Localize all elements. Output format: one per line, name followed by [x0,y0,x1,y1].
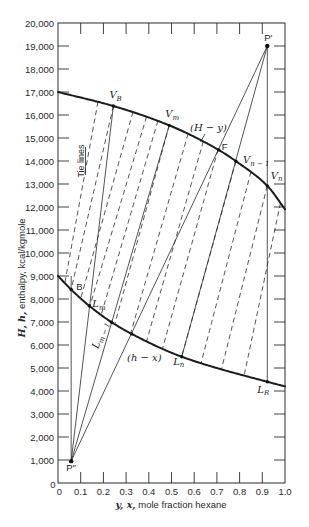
tie-line [81,112,133,298]
axis-tick-labels: 01,0002,0003,0004,0005,0006,0007,0008,00… [25,18,292,497]
y-tick-label: 1,000 [30,455,54,466]
liquid-curve-h-x [58,276,285,386]
y-tick-label: 15,000 [25,133,54,144]
point-marker-b [69,288,72,291]
point-marker-v-m [168,124,171,127]
x-tick-label: 0.8 [233,486,246,497]
y-tick-label: 16,000 [25,110,54,121]
y-tick-label: 11,000 [26,225,54,236]
tie-line [90,117,147,307]
label-b: B [76,281,82,292]
liquid-curve-label: (h − x) [127,352,162,363]
label-p-prime: P′ [264,32,272,43]
y-tick-label: 17,000 [25,87,54,98]
y-tick-label: 14,000 [25,156,54,167]
label-main: P′ [264,32,272,43]
y-tick-label: 3,000 [30,409,54,420]
x-tick-label: 0.2 [97,486,110,497]
tie-line [201,172,251,363]
y-tick-label: 4,000 [30,386,54,397]
tie-line [101,121,158,315]
x-tick-label: 0.9 [256,486,269,497]
point-marker-l-m [88,304,91,307]
tie-line [221,186,267,370]
tie-line [115,125,169,324]
y-tick-label: 6,000 [30,340,54,351]
label-p-dprime: P″ [66,462,76,473]
vapor-curve-label: (H − y) [190,122,227,133]
x-axis-label-text: mole fraction hexane [136,499,227,510]
label-l-r: LR [256,384,270,398]
label-main: F [222,141,228,152]
label-subscript: B [116,95,122,103]
x-tick-label: 0.6 [188,486,201,497]
y-tick-label: 20,000 [25,18,54,29]
x-axis-variables: y, x, [114,499,135,511]
y-tick-label: 5,000 [30,363,54,374]
axis-ticks [58,23,285,483]
x-tick-label: 0.3 [119,486,132,497]
label-v-n: Vn [271,170,283,184]
label-subscript: m − 1 [97,322,112,345]
point-marker-p-prime [265,44,269,48]
y-tick-label: 12,000 [25,202,54,213]
y-axis-label-text: enthalpy, kcal/kgmole [16,218,27,311]
point-marker-l-n [180,355,183,358]
label-subscript: n [278,175,283,183]
x-tick-label: 0.4 [142,486,155,497]
label-l-m-1: Lm − 1 [89,320,112,352]
tie-line [244,203,280,376]
y-tick-label: 19,000 [25,41,54,52]
label-v-n-1: Vn − 1 [243,154,270,168]
plot-frame [58,23,285,483]
y-axis-label: H, h, enthalpy, kcal/kgmole [16,218,28,338]
tie-lines [65,102,281,376]
tie-line [71,106,113,290]
label-subscript: n − 1 [250,160,269,168]
x-tick-label: 0 [57,486,62,497]
y-tick-label: 0 [50,479,55,490]
label-v-m: Vm [165,108,179,122]
x-axis-label: y, x, mole fraction hexane [114,499,226,511]
point-marker-v-n-1 [234,160,237,163]
x-tick-label: 0.1 [74,486,87,497]
point-marker-l-r [266,380,269,383]
label-main: B [76,281,82,292]
label-subscript: m [172,114,179,122]
tie-line [162,150,218,349]
y-tick-label: 10,000 [25,248,54,259]
y-axis-variables: H, h, [16,312,28,339]
label-f: F [222,141,228,152]
label-subscript: m [99,304,106,312]
y-tick-label: 2,000 [30,432,54,443]
operating-line [182,46,268,357]
tie-lines-label: Tie lines [76,144,86,178]
label-main: P″ [66,462,76,473]
intersection-marker [130,332,133,335]
label-subscript: n [180,361,185,369]
label-v-b: VB [109,89,121,103]
point-marker-v-n [266,184,269,187]
label-subscript: R [263,389,270,397]
enthalpy-concentration-diagram: 01,0002,0003,0004,0005,0006,0007,0008,00… [0,0,309,527]
y-tick-label: 8,000 [30,294,54,305]
y-tick-label: 7,000 [30,317,54,328]
x-tick-label: 1.0 [278,486,291,497]
x-tick-label: 0.7 [210,486,223,497]
point-marker-l-m-1 [110,321,113,324]
y-tick-label: 13,000 [25,179,54,190]
y-tick-label: 18,000 [25,64,54,75]
point-marker-v-b [112,104,115,107]
x-tick-label: 0.5 [165,486,178,497]
y-tick-label: 9,000 [30,271,54,282]
point-marker-f [217,148,220,151]
